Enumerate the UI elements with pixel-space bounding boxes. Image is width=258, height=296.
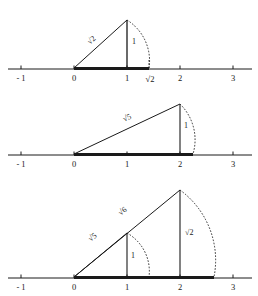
axis-label-2-panel2: 2 — [178, 159, 182, 169]
axis-label-2-panel3: 2 — [178, 282, 182, 292]
axis-label-3-panel1: 3 — [231, 73, 235, 83]
hypotenuse-label-outer-panel3: √6 — [116, 205, 128, 217]
math-figure-square-root-constructions: √2 1 - 1 0 1 √2 2 3 √5 1 - 1 0 1 2 3 — [0, 0, 258, 296]
axis-label-minus1-panel1: - 1 — [16, 73, 25, 83]
panel-sqrt5: √5 1 - 1 0 1 2 3 — [8, 104, 252, 169]
axis-label-2-panel1: 2 — [178, 73, 182, 83]
axis-label-0-panel2: 0 — [72, 159, 76, 169]
axis-label-1-panel1: 1 — [125, 73, 129, 83]
axis-label-1-panel3: 1 — [125, 282, 129, 292]
panel-sqrt6-sqrt7: √5 √6 1 √2 - 1 0 1 2 3 — [8, 190, 252, 292]
panel-sqrt2: √2 1 - 1 0 1 √2 2 3 — [8, 20, 252, 84]
vertical-leg-label-panel2: 1 — [184, 121, 188, 130]
axis-label-1-panel2: 1 — [125, 159, 129, 169]
axis-label-0-panel3: 0 — [72, 282, 76, 292]
hypotenuse-label-panel2: √5 — [121, 112, 132, 124]
axis-label-3-panel2: 3 — [231, 159, 235, 169]
arc-sqrt2-panel1 — [127, 20, 150, 68]
triangle-hypotenuse-panel1 — [74, 20, 127, 68]
triangle-hypotenuse-panel2 — [74, 104, 180, 154]
axis-label-3-panel3: 3 — [231, 282, 235, 292]
axis-label-minus1-panel3: - 1 — [16, 282, 25, 292]
axis-label-minus1-panel2: - 1 — [16, 159, 25, 169]
vertical-leg-label-panel1: 1 — [132, 37, 136, 46]
vertical-leg-label-inner-panel3: 1 — [131, 251, 135, 260]
axis-label-sqrt2-panel1: √2 — [146, 74, 155, 84]
vertical-leg-label-outer-panel3: √2 — [185, 228, 193, 237]
axis-label-0-panel1: 0 — [72, 73, 76, 83]
hypotenuse-label-panel1: √2 — [85, 34, 97, 46]
hypotenuse-label-inner-panel3: √5 — [86, 231, 98, 243]
